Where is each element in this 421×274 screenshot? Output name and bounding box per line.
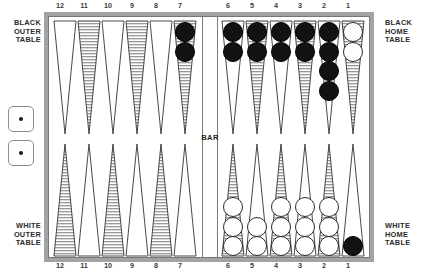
point-number-7-bottom: 7 — [168, 261, 192, 270]
point-number-3-top: 3 — [288, 1, 312, 10]
white-checker[interactable] — [223, 217, 243, 237]
black-checker[interactable] — [223, 42, 243, 62]
point-10[interactable] — [101, 142, 125, 258]
white-checker[interactable] — [223, 197, 243, 217]
point-2[interactable] — [317, 142, 341, 258]
point-number-11-top: 11 — [72, 1, 96, 10]
point-number-5-top: 5 — [240, 1, 264, 10]
board-frame: BAR — [44, 12, 374, 262]
point-8[interactable] — [149, 142, 173, 258]
point-number-7-top: 7 — [168, 1, 192, 10]
black-checker[interactable] — [295, 22, 315, 42]
white-home-table — [220, 142, 368, 258]
point-10[interactable] — [101, 20, 125, 136]
point-1[interactable] — [341, 20, 365, 136]
label-white-home-table: WHITE HOME TABLE — [385, 222, 421, 248]
die-pip — [19, 151, 23, 155]
point-6[interactable] — [221, 142, 245, 258]
point-5[interactable] — [245, 142, 269, 258]
point-7[interactable] — [173, 142, 197, 258]
point-3[interactable] — [293, 20, 317, 136]
point-8[interactable] — [149, 20, 173, 136]
white-checker[interactable] — [319, 236, 339, 256]
point-number-12-bottom: 12 — [48, 261, 72, 270]
white-checker[interactable] — [223, 236, 243, 256]
point-number-11-bottom: 11 — [72, 261, 96, 270]
white-checker[interactable] — [295, 217, 315, 237]
white-checker[interactable] — [319, 197, 339, 217]
point-number-2-bottom: 2 — [312, 261, 336, 270]
backgammon-board: BLACK OUTER TABLE BLACK HOME TABLE WHITE… — [0, 0, 421, 274]
black-checker[interactable] — [271, 22, 291, 42]
point-number-1-top: 1 — [336, 1, 360, 10]
point-number-1-bottom: 1 — [336, 261, 360, 270]
white-checker[interactable] — [271, 217, 291, 237]
black-checker[interactable] — [295, 42, 315, 62]
point-number-3-bottom: 3 — [288, 261, 312, 270]
point-3[interactable] — [293, 142, 317, 258]
black-checker[interactable] — [319, 22, 339, 42]
black-checker[interactable] — [271, 42, 291, 62]
point-number-9-top: 9 — [120, 1, 144, 10]
black-checker[interactable] — [247, 22, 267, 42]
point-7[interactable] — [173, 20, 197, 136]
white-checker[interactable] — [247, 236, 267, 256]
white-checker[interactable] — [271, 236, 291, 256]
point-9[interactable] — [125, 20, 149, 136]
point-6[interactable] — [221, 20, 245, 136]
point-5[interactable] — [245, 20, 269, 136]
die-upper[interactable] — [8, 106, 34, 132]
point-number-10-bottom: 10 — [96, 261, 120, 270]
label-white-outer-table: WHITE OUTER TABLE — [5, 222, 41, 248]
black-checker[interactable] — [343, 236, 363, 256]
black-checker[interactable] — [223, 22, 243, 42]
black-checker[interactable] — [319, 81, 339, 101]
white-checker[interactable] — [343, 42, 363, 62]
black-checker[interactable] — [319, 42, 339, 62]
point-11[interactable] — [77, 20, 101, 136]
point-4[interactable] — [269, 142, 293, 258]
point-2[interactable] — [317, 20, 341, 136]
point-number-4-bottom: 4 — [264, 261, 288, 270]
black-outer-table — [52, 20, 200, 136]
black-checker[interactable] — [319, 61, 339, 81]
label-black-outer-table: BLACK OUTER TABLE — [5, 19, 41, 45]
white-outer-table — [52, 142, 200, 258]
black-checker[interactable] — [175, 42, 195, 62]
black-checker[interactable] — [175, 22, 195, 42]
point-number-8-top: 8 — [144, 1, 168, 10]
white-checker[interactable] — [247, 217, 267, 237]
bar-label: BAR — [201, 133, 219, 142]
point-11[interactable] — [77, 142, 101, 258]
point-number-2-top: 2 — [312, 1, 336, 10]
point-number-8-bottom: 8 — [144, 261, 168, 270]
black-checker[interactable] — [247, 42, 267, 62]
label-black-home-table: BLACK HOME TABLE — [385, 19, 421, 45]
point-1[interactable] — [341, 142, 365, 258]
board-inner: BAR — [48, 16, 370, 258]
bar[interactable]: BAR — [202, 17, 218, 257]
point-number-4-top: 4 — [264, 1, 288, 10]
point-number-9-bottom: 9 — [120, 261, 144, 270]
white-checker[interactable] — [319, 217, 339, 237]
black-home-table — [220, 20, 368, 136]
white-checker[interactable] — [295, 197, 315, 217]
point-number-10-top: 10 — [96, 1, 120, 10]
point-number-12-top: 12 — [48, 1, 72, 10]
white-checker[interactable] — [295, 236, 315, 256]
point-9[interactable] — [125, 142, 149, 258]
point-number-6-bottom: 6 — [216, 261, 240, 270]
point-number-5-bottom: 5 — [240, 261, 264, 270]
point-12[interactable] — [53, 20, 77, 136]
die-lower[interactable] — [8, 140, 34, 166]
white-checker[interactable] — [343, 22, 363, 42]
point-numbers-bottom: 121110987654321 — [44, 261, 374, 273]
die-pip — [19, 117, 23, 121]
point-4[interactable] — [269, 20, 293, 136]
point-number-6-top: 6 — [216, 1, 240, 10]
point-12[interactable] — [53, 142, 77, 258]
white-checker[interactable] — [271, 197, 291, 217]
